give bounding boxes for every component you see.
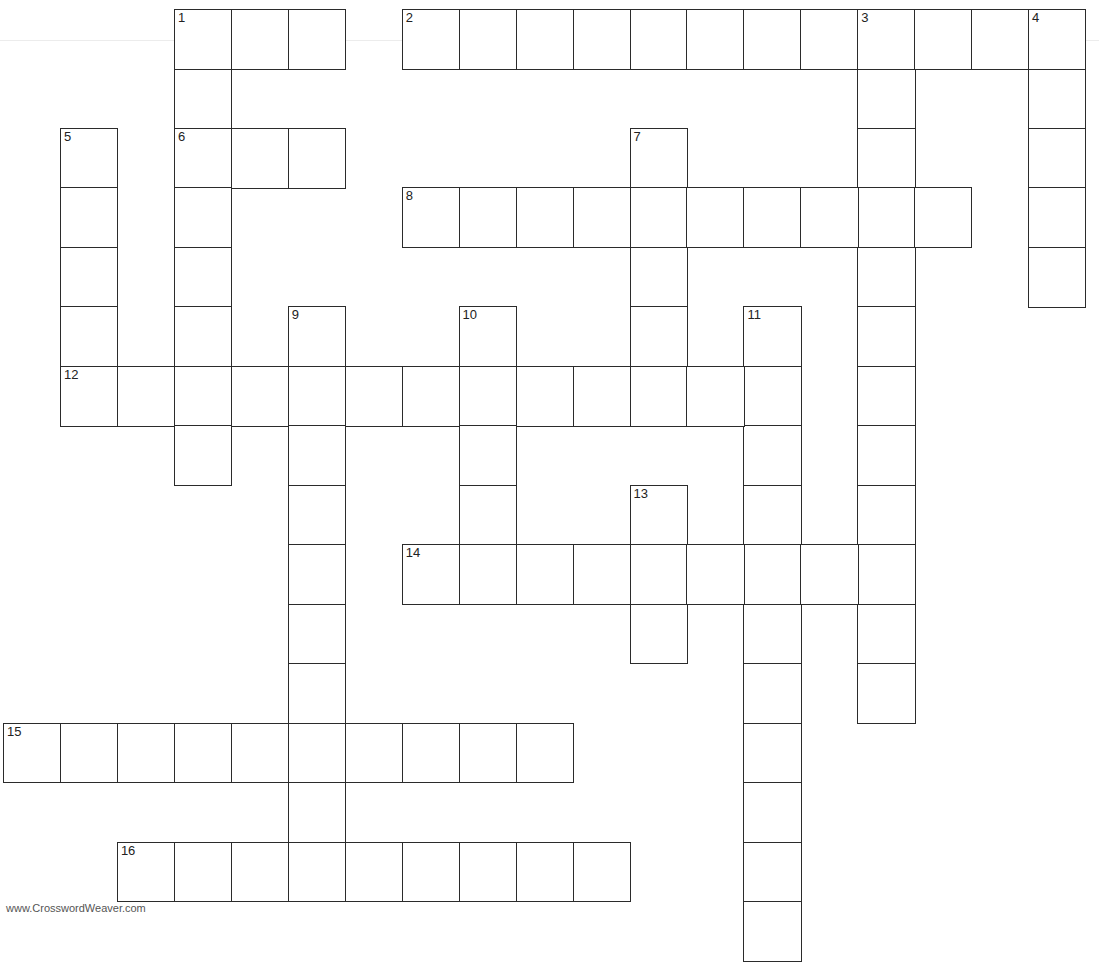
- grid-cell[interactable]: 5: [60, 128, 118, 189]
- grid-cell[interactable]: [402, 366, 460, 427]
- grid-cell[interactable]: [630, 306, 688, 367]
- grid-cell[interactable]: [231, 842, 289, 903]
- grid-cell[interactable]: 2: [402, 9, 460, 70]
- grid-cell[interactable]: [288, 782, 346, 843]
- grid-cell[interactable]: [914, 9, 972, 70]
- grid-cell[interactable]: [60, 247, 118, 308]
- grid-cell[interactable]: [914, 187, 972, 248]
- grid-cell[interactable]: 10: [459, 306, 517, 367]
- grid-cell[interactable]: [174, 723, 232, 784]
- grid-cell[interactable]: [516, 366, 574, 427]
- grid-cell[interactable]: [743, 901, 801, 962]
- grid-cell[interactable]: [1028, 187, 1086, 248]
- grid-cell[interactable]: [857, 69, 915, 130]
- grid-cell[interactable]: [288, 842, 346, 903]
- grid-cell[interactable]: [231, 723, 289, 784]
- grid-cell[interactable]: [174, 366, 232, 427]
- grid-cell[interactable]: [459, 425, 517, 486]
- grid-cell[interactable]: [1028, 128, 1086, 189]
- grid-cell[interactable]: 6: [174, 128, 232, 189]
- grid-cell[interactable]: [516, 842, 574, 903]
- grid-cell[interactable]: [743, 187, 801, 248]
- grid-cell[interactable]: 12: [60, 366, 118, 427]
- grid-cell[interactable]: [857, 187, 915, 248]
- grid-cell[interactable]: 11: [743, 306, 801, 367]
- grid-cell[interactable]: [345, 366, 403, 427]
- grid-cell[interactable]: [288, 544, 346, 605]
- grid-cell[interactable]: [1028, 247, 1086, 308]
- grid-cell[interactable]: [573, 9, 631, 70]
- grid-cell[interactable]: 1: [174, 9, 232, 70]
- grid-cell[interactable]: [459, 544, 517, 605]
- grid-cell[interactable]: [743, 425, 801, 486]
- grid-cell[interactable]: [800, 544, 858, 605]
- grid-cell[interactable]: [1028, 69, 1086, 130]
- grid-cell[interactable]: [459, 366, 517, 427]
- grid-cell[interactable]: [459, 842, 517, 903]
- grid-cell[interactable]: [459, 9, 517, 70]
- grid-cell[interactable]: [630, 366, 688, 427]
- grid-cell[interactable]: [857, 128, 915, 189]
- grid-cell[interactable]: [459, 485, 517, 546]
- grid-cell[interactable]: [630, 544, 688, 605]
- grid-cell[interactable]: [288, 723, 346, 784]
- grid-cell[interactable]: 14: [402, 544, 460, 605]
- grid-cell[interactable]: [174, 69, 232, 130]
- grid-cell[interactable]: 3: [857, 9, 915, 70]
- grid-cell[interactable]: [743, 723, 801, 784]
- grid-cell[interactable]: [686, 9, 744, 70]
- grid-cell[interactable]: [743, 485, 801, 546]
- grid-cell[interactable]: [573, 366, 631, 427]
- grid-cell[interactable]: [743, 544, 801, 605]
- grid-cell[interactable]: [516, 187, 574, 248]
- grid-cell[interactable]: [60, 723, 118, 784]
- grid-cell[interactable]: [630, 604, 688, 665]
- grid-cell[interactable]: [516, 723, 574, 784]
- grid-cell[interactable]: [345, 723, 403, 784]
- grid-cell[interactable]: [686, 366, 744, 427]
- grid-cell[interactable]: [288, 128, 346, 189]
- grid-cell[interactable]: [857, 663, 915, 724]
- grid-cell[interactable]: [857, 247, 915, 308]
- grid-cell[interactable]: [231, 366, 289, 427]
- grid-cell[interactable]: [516, 9, 574, 70]
- grid-cell[interactable]: [402, 723, 460, 784]
- grid-cell[interactable]: [174, 425, 232, 486]
- grid-cell[interactable]: 15: [3, 723, 61, 784]
- grid-cell[interactable]: [288, 663, 346, 724]
- grid-cell[interactable]: [743, 782, 801, 843]
- grid-cell[interactable]: 4: [1028, 9, 1086, 70]
- grid-cell[interactable]: [288, 425, 346, 486]
- grid-cell[interactable]: [743, 9, 801, 70]
- grid-cell[interactable]: [459, 723, 517, 784]
- grid-cell[interactable]: [288, 9, 346, 70]
- grid-cell[interactable]: [288, 485, 346, 546]
- grid-cell[interactable]: [573, 842, 631, 903]
- grid-cell[interactable]: [686, 544, 744, 605]
- grid-cell[interactable]: 16: [117, 842, 175, 903]
- grid-cell[interactable]: [686, 187, 744, 248]
- grid-cell[interactable]: [800, 9, 858, 70]
- grid-cell[interactable]: [800, 187, 858, 248]
- grid-cell[interactable]: [174, 842, 232, 903]
- grid-cell[interactable]: [743, 366, 801, 427]
- grid-cell[interactable]: [857, 604, 915, 665]
- grid-cell[interactable]: [231, 128, 289, 189]
- grid-cell[interactable]: [60, 306, 118, 367]
- grid-cell[interactable]: [345, 842, 403, 903]
- grid-cell[interactable]: [402, 842, 460, 903]
- grid-cell[interactable]: [459, 187, 517, 248]
- grid-cell[interactable]: [231, 9, 289, 70]
- grid-cell[interactable]: 9: [288, 306, 346, 367]
- grid-cell[interactable]: [857, 366, 915, 427]
- grid-cell[interactable]: [630, 9, 688, 70]
- grid-cell[interactable]: [857, 485, 915, 546]
- grid-cell[interactable]: [174, 306, 232, 367]
- grid-cell[interactable]: [573, 187, 631, 248]
- grid-cell[interactable]: [174, 247, 232, 308]
- grid-cell[interactable]: [117, 723, 175, 784]
- grid-cell[interactable]: [630, 187, 688, 248]
- grid-cell[interactable]: [743, 842, 801, 903]
- grid-cell[interactable]: [60, 187, 118, 248]
- grid-cell[interactable]: [971, 9, 1029, 70]
